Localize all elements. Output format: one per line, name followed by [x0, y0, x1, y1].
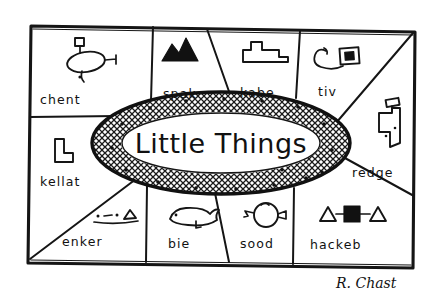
sood-icon: [244, 203, 286, 227]
redge-icon: [379, 98, 400, 147]
cell-label-hackeb: hackeb: [310, 237, 361, 252]
artist-signature: R. Chast: [335, 275, 397, 291]
bie-icon: [170, 208, 219, 228]
cell-label-spak: spak: [163, 86, 197, 101]
cell-label-redge: redge: [352, 165, 394, 180]
cartoon-drawing: Little Things: [0, 0, 442, 303]
cell-label-kabe: kabe: [240, 85, 275, 100]
spak-icon: [162, 38, 198, 61]
cell-label-bie: bie: [168, 236, 190, 251]
cell-label-sood: sood: [240, 236, 274, 251]
hackeb-icon: [320, 206, 386, 222]
cartoon-canvas: Little Things: [0, 0, 442, 303]
enker-icon: [94, 210, 138, 223]
center-title-text: Little Things: [135, 128, 307, 159]
tiv-icon: [314, 47, 359, 68]
chent-icon: [66, 38, 116, 82]
cell-label-enker: enker: [62, 234, 103, 249]
cell-label-kellat: kellat: [40, 174, 81, 189]
kellat-icon: [55, 139, 73, 162]
cell-label-chent: chent: [40, 92, 81, 107]
center-title-group: Little Things: [135, 128, 307, 159]
kabe-icon: [243, 42, 288, 62]
cell-label-tiv: tiv: [318, 84, 337, 99]
